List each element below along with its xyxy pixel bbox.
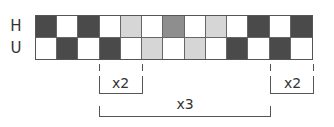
- cell-u-1-white: [36, 38, 57, 60]
- cell-h-7-medium: [163, 16, 184, 38]
- sequence-grid: [35, 15, 313, 60]
- cell-u-3-white: [78, 38, 99, 60]
- cell-u-5-white: [121, 38, 142, 60]
- bracket-tick: [313, 64, 314, 71]
- bracket-label-x2-left: x2: [99, 75, 142, 91]
- cell-u-12-dark: [270, 38, 291, 60]
- row-label-u: U: [6, 37, 26, 59]
- cell-u-4-dark: [100, 38, 121, 60]
- cell-h-4-white: [100, 16, 121, 38]
- cell-h-3-dark: [78, 16, 99, 38]
- bracket-label-x3: x3: [99, 96, 271, 112]
- cell-u-9-white: [206, 38, 227, 60]
- cell-h-2-white: [57, 16, 78, 38]
- cell-u-11-white: [248, 38, 269, 60]
- row-label-h: H: [6, 15, 26, 37]
- cell-u-6-light: [142, 38, 163, 60]
- bracket-label-x2-right: x2: [271, 75, 314, 91]
- cell-h-11-dark: [248, 16, 269, 38]
- cell-u-2-dark: [57, 38, 78, 60]
- cell-h-1-dark: [36, 16, 57, 38]
- bracket-tick: [99, 64, 100, 71]
- cell-h-8-white: [185, 16, 206, 38]
- cell-u-13-white: [291, 38, 312, 60]
- cell-h-12-white: [270, 16, 291, 38]
- cell-u-8-light: [185, 38, 206, 60]
- cell-h-9-light: [206, 16, 227, 38]
- cell-h-5-light: [121, 16, 142, 38]
- cell-h-6-white: [142, 16, 163, 38]
- bracket-tick: [142, 64, 143, 71]
- bracket-tick: [270, 64, 271, 71]
- cell-h-10-white: [227, 16, 248, 38]
- cell-h-13-dark: [291, 16, 312, 38]
- cell-u-7-white: [163, 38, 184, 60]
- cell-u-10-dark: [227, 38, 248, 60]
